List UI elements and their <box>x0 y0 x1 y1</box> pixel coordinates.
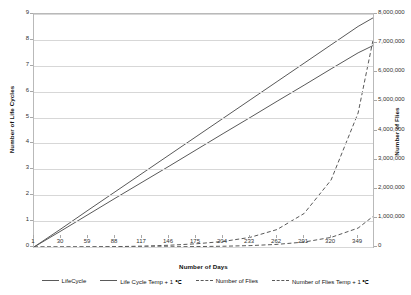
y-axis-left-tick-label: 5 <box>0 113 29 119</box>
y-axis-right-tick-mark <box>374 13 377 14</box>
x-axis-tick-mark <box>357 235 358 238</box>
gridline <box>34 143 373 144</box>
y-axis-left-tick-mark <box>30 194 33 195</box>
x-axis-tick-label: 349 <box>342 238 372 244</box>
y-axis-left-tick-label: 4 <box>0 138 29 144</box>
y-axis-right-tick-mark <box>374 217 377 218</box>
chart-container: Number of Life Cycles Number of Flies Nu… <box>0 0 411 295</box>
y-axis-right-tick-label: 4,000,000 <box>378 126 411 132</box>
y-axis-left-tick-mark <box>30 65 33 66</box>
x-axis-tick-label: 175 <box>180 238 210 244</box>
y-axis-right-tick-mark <box>374 246 377 247</box>
gridline <box>34 118 373 119</box>
y-axis-left-tick-label: 8 <box>0 35 29 41</box>
x-axis-tick-label: 204 <box>207 238 237 244</box>
x-axis-tick-mark <box>195 235 196 238</box>
x-axis-tick-label: 320 <box>315 238 345 244</box>
gridline <box>34 66 373 67</box>
plot-area <box>33 13 374 248</box>
x-axis-tick-mark <box>141 235 142 238</box>
y-axis-left-tick-mark <box>30 39 33 40</box>
y-axis-left-tick-label: 3 <box>0 164 29 170</box>
y-axis-right-tick-mark <box>374 100 377 101</box>
x-axis-tick-label: 262 <box>261 238 291 244</box>
x-axis-tick-mark <box>114 235 115 238</box>
y-axis-left-tick-label: 9 <box>0 9 29 15</box>
gridline <box>34 195 373 196</box>
x-axis-tick-mark <box>87 235 88 238</box>
y-axis-right-tick-label: 1,000,000 <box>378 213 411 219</box>
y-axis-left-tick-mark <box>30 91 33 92</box>
chart-legend: LifeCycleLife Cycle Temp + 1 ℃Number of … <box>0 274 411 288</box>
series-line-1 <box>34 46 373 247</box>
y-axis-left-tick-label: 6 <box>0 87 29 93</box>
legend-swatch-dashed-icon <box>196 278 213 284</box>
y-axis-left-tick-label: 1 <box>0 216 29 222</box>
y-axis-left-tick-mark <box>30 220 33 221</box>
x-axis-tick-label: 30 <box>45 238 75 244</box>
y-axis-left-tick-mark <box>30 168 33 169</box>
gridline <box>34 221 373 222</box>
legend-label: Number of Flies Temp + 1 ℃ <box>292 278 369 285</box>
x-axis-tick-mark <box>330 235 331 238</box>
y-axis-right-tick-mark <box>374 71 377 72</box>
y-axis-right-tick-label: 5,000,000 <box>378 96 411 102</box>
legend-item[interactable]: LifeCycle <box>42 278 87 284</box>
y-axis-left-tick-mark <box>30 13 33 14</box>
gridline <box>34 14 373 15</box>
x-axis-tick-label: 59 <box>72 238 102 244</box>
gridline <box>34 247 373 248</box>
y-axis-right-tick-mark <box>374 188 377 189</box>
y-axis-right-tick-label: 7,000,000 <box>378 38 411 44</box>
x-axis-title: Number of Days <box>33 263 374 270</box>
x-axis-tick-label: 146 <box>153 238 183 244</box>
y-axis-left-tick-mark <box>30 142 33 143</box>
y-axis-left-tick-label: 2 <box>0 190 29 196</box>
legend-swatch-solid-icon <box>100 278 117 284</box>
legend-label: LifeCycle <box>62 278 87 284</box>
x-axis-tick-mark <box>303 235 304 238</box>
legend-swatch-solid-icon <box>42 278 59 284</box>
legend-label: Number of Flies <box>216 278 258 284</box>
x-axis-tick-label: 117 <box>126 238 156 244</box>
gridline <box>34 169 373 170</box>
gridline <box>34 92 373 93</box>
y-axis-left-tick-mark <box>30 117 33 118</box>
y-axis-right-tick-label: 2,000,000 <box>378 184 411 190</box>
y-axis-left-tick-mark <box>30 246 33 247</box>
series-line-2 <box>34 18 373 247</box>
legend-swatch-dashed-icon <box>272 278 289 284</box>
x-axis-tick-mark <box>60 235 61 238</box>
gridline <box>34 40 373 41</box>
x-axis-tick-mark <box>276 235 277 238</box>
x-axis-tick-label: 291 <box>288 238 318 244</box>
x-axis-tick-mark <box>168 235 169 238</box>
series-layer <box>34 14 373 247</box>
x-axis-tick-label: 1 <box>18 238 48 244</box>
y-axis-right-tick-label: 0 <box>378 242 411 248</box>
legend-item[interactable]: Number of Flies <box>196 278 258 284</box>
y-axis-right-tick-label: 8,000,000 <box>378 9 411 15</box>
y-axis-right-tick-mark <box>374 42 377 43</box>
y-axis-right-tick-mark <box>374 159 377 160</box>
y-axis-right-tick-mark <box>374 130 377 131</box>
x-axis-tick-mark <box>249 235 250 238</box>
y-axis-right-tick-label: 6,000,000 <box>378 67 411 73</box>
y-axis-right-tick-label: 3,000,000 <box>378 155 411 161</box>
legend-item[interactable]: Number of Flies Temp + 1 ℃ <box>272 278 369 285</box>
x-axis-tick-label: 88 <box>99 238 129 244</box>
legend-item[interactable]: Life Cycle Temp + 1 ℃ <box>100 278 181 285</box>
legend-label: Life Cycle Temp + 1 ℃ <box>120 278 181 285</box>
x-axis-tick-label: 233 <box>234 238 264 244</box>
x-axis-tick-mark <box>222 235 223 238</box>
y-axis-left-tick-label: 7 <box>0 61 29 67</box>
x-axis-tick-mark <box>33 235 34 238</box>
